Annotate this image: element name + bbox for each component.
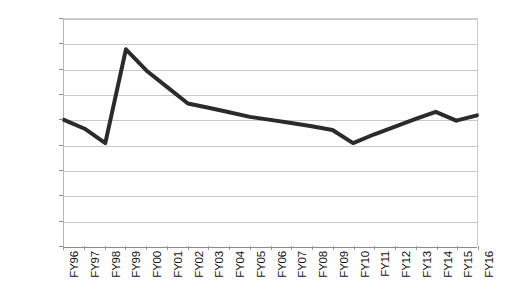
x-tick-label-fy96: FY96: [68, 251, 80, 291]
x-tick-label-fy14: FY14: [442, 251, 454, 291]
x-tick-label-fy10: FY10: [359, 251, 371, 291]
x-tick-label-fy08: FY08: [317, 251, 329, 291]
x-tick-label-fy03: FY03: [213, 251, 225, 291]
x-tick-label-fy00: FY00: [151, 251, 163, 291]
x-tick-label-fy09: FY09: [338, 251, 350, 291]
x-tick-mark: [229, 246, 230, 250]
x-tick-mark: [125, 246, 126, 250]
x-tick-mark: [291, 246, 292, 250]
x-tick-label-fy99: FY99: [130, 251, 142, 291]
x-tick-label-fy04: FY04: [234, 251, 246, 291]
x-tick-label-fy07: FY07: [296, 251, 308, 291]
x-tick-mark: [354, 246, 355, 250]
x-tick-mark: [374, 246, 375, 250]
x-tick-mark: [457, 246, 458, 250]
x-tick-mark: [188, 246, 189, 250]
x-tick-label-fy12: FY12: [400, 251, 412, 291]
x-tick-mark: [146, 246, 147, 250]
x-tick-mark: [478, 246, 479, 250]
line-chart: 9,0008,0007,0006,0005,0004,0003,0002,000…: [0, 0, 507, 297]
x-tick-label-fy02: FY02: [193, 251, 205, 291]
x-tick-mark: [395, 246, 396, 250]
x-tick-mark: [208, 246, 209, 250]
x-tick-mark: [250, 246, 251, 250]
x-tick-label-fy11: FY11: [379, 251, 391, 291]
x-tick-label-fy97: FY97: [89, 251, 101, 291]
x-tick-label-fy98: FY98: [110, 251, 122, 291]
x-tick-label-fy16: FY16: [483, 251, 495, 291]
x-tick-mark: [84, 246, 85, 250]
x-tick-label-fy01: FY01: [172, 251, 184, 291]
x-tick-mark: [167, 246, 168, 250]
x-tick-mark: [312, 246, 313, 250]
x-tick-mark: [333, 246, 334, 250]
x-axis: FY96FY97FY98FY99FY00FY01FY02FY03FY04FY05…: [0, 0, 507, 297]
x-tick-mark: [437, 246, 438, 250]
x-tick-label-fy05: FY05: [255, 251, 267, 291]
x-tick-mark: [63, 246, 64, 250]
x-tick-label-fy15: FY15: [462, 251, 474, 291]
x-tick-label-fy06: FY06: [276, 251, 288, 291]
x-tick-mark: [105, 246, 106, 250]
x-tick-label-fy13: FY13: [421, 251, 433, 291]
x-tick-mark: [416, 246, 417, 250]
x-tick-mark: [271, 246, 272, 250]
